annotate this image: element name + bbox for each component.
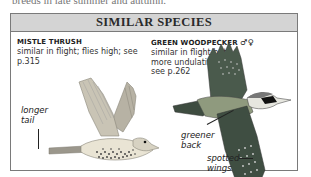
annotation-spotted-wings: spotted wings [207, 154, 241, 173]
leader-line [239, 158, 253, 159]
species-mistle-thrush: MISTLE THRUSH similar in flight; flies h… [17, 38, 147, 66]
species-name: MISTLE THRUSH [17, 38, 147, 47]
annotation-greener-back: greener back [181, 131, 213, 150]
cutoff-text-line: breeds in late summer and autumn. [12, 0, 202, 6]
annotation-longer-tail: longer tail [21, 106, 55, 125]
similar-species-box: SIMILAR SPECIES MISTLE THRUSH similar in… [10, 13, 298, 171]
mistle-thrush-illustration [41, 74, 171, 174]
box-title: SIMILAR SPECIES [11, 14, 297, 32]
leader-line [38, 129, 39, 149]
species-description: similar in flight; flies high; see p.315 [17, 47, 145, 66]
